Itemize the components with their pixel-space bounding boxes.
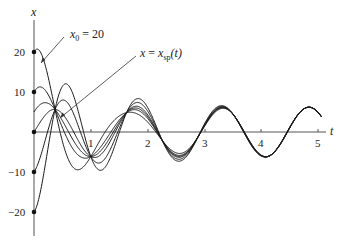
initial-value-dot (32, 50, 37, 55)
solution-curves-chart: x t 1 2 3 4 5 20 10 −10 −20 x0 = 20 x = … (0, 0, 345, 243)
annotation-sp-label: x = xsp(t) (139, 46, 182, 62)
initial-value-dot (32, 90, 37, 95)
x-tick-label: 3 (202, 137, 208, 149)
y-tick-label: 20 (14, 46, 26, 58)
annotation-x0: x0 = 20 (41, 27, 104, 63)
solution-curve (34, 49, 321, 170)
y-tick-label: −20 (8, 206, 26, 218)
annotation-x0-label: x0 = 20 (69, 27, 104, 43)
y-tick-label: −10 (8, 166, 26, 178)
arrowhead-icon (60, 113, 65, 119)
y-ticks: 20 10 −10 −20 (8, 46, 26, 218)
solution-curve (34, 103, 321, 157)
x-axis-label: t (330, 124, 334, 138)
initial-value-dot (32, 210, 37, 215)
x-tick-label: 4 (258, 137, 264, 149)
annotation-steady-state: x = xsp(t) (60, 46, 182, 118)
x-tick-label: 2 (145, 137, 151, 149)
initial-value-dot (32, 130, 37, 135)
x-tick-label: 5 (315, 137, 321, 149)
solution-curves (34, 49, 321, 212)
initial-value-dot (32, 170, 37, 175)
y-tick-label: 10 (14, 86, 26, 98)
annotation-sp-arrow-line (60, 56, 136, 118)
x-tick-label: 1 (88, 137, 94, 149)
annotation-x0-arrow-line (41, 37, 64, 63)
y-axis-label: x (30, 5, 37, 19)
